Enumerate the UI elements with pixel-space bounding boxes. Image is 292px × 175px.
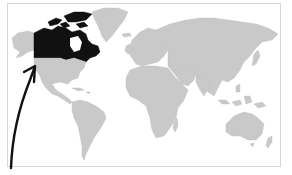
region-canada-arctic-islands[interactable] xyxy=(48,12,92,28)
region-south-america[interactable] xyxy=(72,100,106,160)
region-iceland[interactable] xyxy=(122,33,131,37)
region-canada[interactable] xyxy=(34,26,100,62)
arrow-annotation xyxy=(11,66,35,168)
region-australia[interactable] xyxy=(226,112,264,140)
region-tasmania[interactable] xyxy=(250,143,254,147)
region-japan[interactable] xyxy=(252,50,260,66)
world-map xyxy=(0,0,292,175)
region-alaska[interactable] xyxy=(12,31,34,58)
region-indonesia[interactable] xyxy=(218,84,266,108)
arrow-shaft xyxy=(11,68,34,168)
region-greenland[interactable] xyxy=(92,8,128,42)
region-new-zealand[interactable] xyxy=(266,136,272,148)
region-caribbean[interactable] xyxy=(72,88,90,94)
